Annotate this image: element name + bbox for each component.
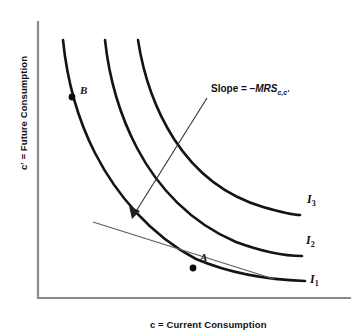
slope-annotation: Slope = –MRSc,c′ [211, 83, 289, 96]
point-label-A: A [200, 251, 207, 263]
curve-I2 [105, 40, 302, 256]
curve-label-I3-sub: 3 [312, 199, 316, 208]
plot-canvas [0, 0, 358, 336]
curve-label-I2-sub: 2 [311, 240, 315, 249]
point-marker-B [69, 94, 76, 101]
curve-label-I3: I3 [307, 192, 316, 208]
x-axis-label-wrap: c = Current Consumption [150, 314, 340, 332]
slope-prefix-text: Slope = – [211, 83, 255, 94]
indifference-curve-figure: c′ = Future Consumption c = Current Cons… [0, 0, 358, 336]
curve-I3 [138, 40, 300, 215]
x-axis-label: c = Current Consumption [150, 319, 267, 330]
curve-label-I1-sub: 1 [315, 279, 319, 288]
y-axis-label: c′ = Future Consumption [18, 56, 29, 170]
curve-I1 [63, 40, 305, 281]
point-marker-A [190, 265, 197, 272]
slope-subscript: c,c′ [277, 89, 288, 96]
tangent-line-at-A [93, 222, 274, 279]
y-axis-label-wrap: c′ = Future Consumption [13, 23, 31, 203]
slope-mrs-symbol: MRS [255, 83, 277, 94]
curve-label-I1: I1 [310, 272, 319, 288]
point-label-B: B [80, 84, 87, 96]
curve-label-I2: I2 [306, 233, 315, 249]
